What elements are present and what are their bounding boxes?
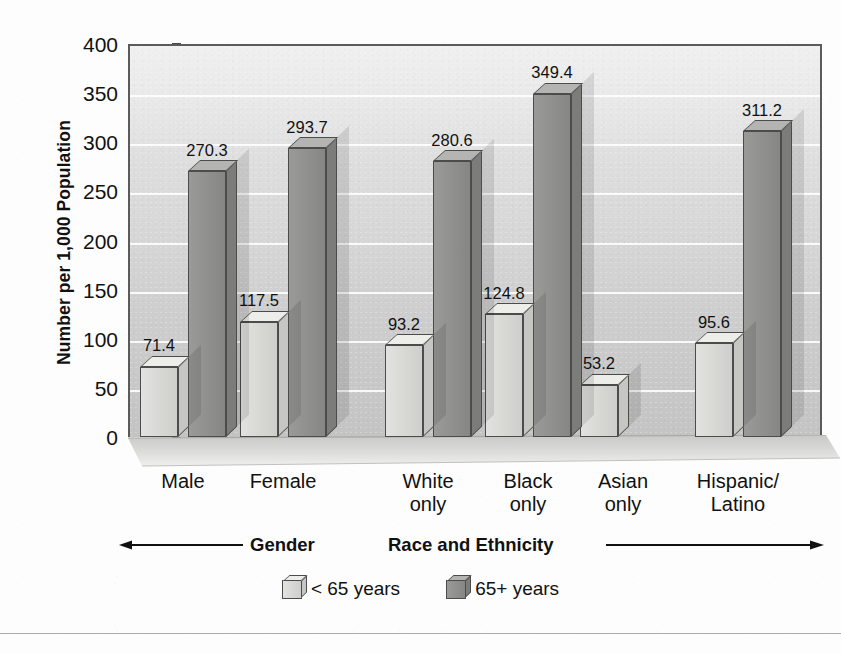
bar-top-face bbox=[188, 160, 226, 171]
x-category-label-line: only bbox=[504, 493, 553, 516]
bar-value-label: 280.6 bbox=[431, 132, 472, 149]
bar-top-face bbox=[385, 334, 423, 345]
bar-value-label: 349.4 bbox=[531, 64, 572, 81]
bar-side-face bbox=[423, 335, 434, 437]
bar-shadow bbox=[433, 323, 446, 427]
bar-front-face bbox=[385, 345, 423, 437]
bar-shadow bbox=[533, 292, 546, 427]
x-category-label: Asianonly bbox=[598, 470, 648, 515]
legend-item[interactable]: 65+ years bbox=[446, 578, 559, 600]
bar-shadow bbox=[336, 126, 349, 427]
y-tick-label: 200 bbox=[58, 230, 118, 251]
bar-side-face bbox=[471, 151, 482, 437]
y-tick-label: 250 bbox=[58, 181, 118, 202]
bar-shadow bbox=[581, 72, 594, 428]
x-category-label: Female bbox=[250, 470, 317, 493]
bar-shadow bbox=[288, 299, 301, 427]
bar-shadow bbox=[743, 321, 756, 427]
x-category-label-line: Asian bbox=[598, 470, 648, 493]
bar-front-face bbox=[695, 343, 733, 437]
legend-swatch-light bbox=[282, 580, 302, 599]
x-category-label: Whiteonly bbox=[402, 470, 453, 515]
x-category-label-line: White bbox=[402, 470, 453, 493]
bar-top-face bbox=[140, 356, 178, 367]
x-category-label-line: Female bbox=[250, 470, 317, 493]
legend-swatch-top bbox=[447, 575, 465, 581]
bar-value-label: 95.6 bbox=[698, 314, 730, 331]
bar-shadow bbox=[236, 149, 249, 427]
legend-label: < 65 years bbox=[311, 578, 400, 600]
bar-top-face bbox=[533, 83, 571, 94]
bar-side-face bbox=[178, 356, 189, 437]
y-tick-label: 50 bbox=[58, 377, 118, 398]
chart-page: Number per 1,000 Population 050100150200… bbox=[0, 0, 841, 653]
y-tick-label: 350 bbox=[58, 83, 118, 104]
x-category-label-line: Male bbox=[161, 470, 204, 493]
bar-top-face bbox=[743, 120, 781, 131]
bar-top-face bbox=[695, 332, 733, 343]
bar-shadow bbox=[791, 109, 804, 427]
bar-value-label: 71.4 bbox=[143, 337, 175, 354]
bar-value-label: 93.2 bbox=[388, 316, 420, 333]
y-tick-label: 100 bbox=[58, 328, 118, 349]
group-axis-race: Race and Ethnicity bbox=[388, 532, 828, 558]
y-axis-ticks: 050100150200250300350400 bbox=[52, 0, 118, 653]
bar-series-layer: 71.4270.3117.5293.793.2280.6124.8349.453… bbox=[128, 44, 822, 437]
bar-shadow bbox=[628, 363, 641, 428]
bar-shadow bbox=[481, 139, 494, 427]
bar-side-face bbox=[618, 374, 629, 437]
x-category-label-line: only bbox=[402, 493, 453, 516]
bar-side-face bbox=[571, 83, 582, 437]
y-tick-label: 0 bbox=[58, 427, 118, 448]
legend-swatch-top bbox=[283, 575, 301, 581]
chart-legend: < 65 years65+ years bbox=[0, 578, 841, 600]
bar-front-face bbox=[140, 367, 178, 437]
bar-value-label: 270.3 bbox=[186, 142, 227, 159]
bar-side-face bbox=[523, 304, 534, 437]
y-tick-label: 150 bbox=[58, 279, 118, 300]
bar-side-face bbox=[733, 332, 744, 437]
legend-swatch-dark bbox=[446, 580, 466, 599]
x-category-label-line: only bbox=[598, 493, 648, 516]
bar-under-65: 95.6 bbox=[695, 343, 733, 437]
y-tick-label: 300 bbox=[58, 132, 118, 153]
bar-under-65: 71.4 bbox=[140, 367, 178, 437]
bar-side-face bbox=[326, 138, 337, 437]
legend-label: 65+ years bbox=[475, 578, 559, 600]
bar-top-face bbox=[288, 137, 326, 148]
x-category-label: Blackonly bbox=[504, 470, 553, 515]
bar-value-label: 311.2 bbox=[742, 102, 782, 119]
x-category-label-line: Black bbox=[504, 470, 553, 493]
group-axis-gender: Gender bbox=[118, 532, 288, 558]
page-rule-line bbox=[0, 633, 841, 634]
x-category-label-line: Hispanic/ bbox=[697, 470, 779, 493]
bar-side-face bbox=[781, 121, 792, 437]
chart-floor bbox=[128, 435, 840, 469]
bar-under-65: 93.2 bbox=[385, 345, 423, 437]
legend-item[interactable]: < 65 years bbox=[282, 578, 400, 600]
bar-shadow bbox=[188, 345, 201, 428]
y-tick-label: 400 bbox=[58, 34, 118, 55]
bar-top-face bbox=[433, 150, 471, 161]
group-label-gender: Gender bbox=[250, 532, 315, 558]
bar-side-face bbox=[278, 311, 289, 437]
legend-swatch-side bbox=[465, 575, 471, 598]
x-category-label: Male bbox=[161, 470, 204, 493]
bar-value-label: 293.7 bbox=[286, 119, 327, 136]
bar-side-face bbox=[226, 161, 237, 437]
x-category-label: Hispanic/Latino bbox=[697, 470, 779, 515]
x-category-label-line: Latino bbox=[697, 493, 779, 516]
